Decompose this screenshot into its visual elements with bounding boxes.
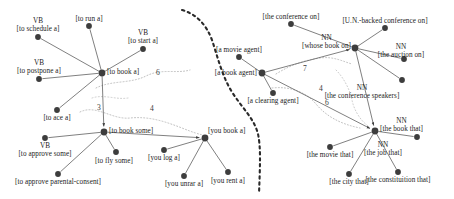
edge (48, 132, 100, 137)
pos-tag: NN (302, 34, 351, 42)
graph-node[interactable] (327, 144, 333, 150)
edge-weight-label: 4 (150, 104, 154, 113)
node-label-text: [the conference speakers] (325, 92, 400, 100)
node-label-text: [you unrar a] (165, 180, 203, 188)
edge (186, 141, 204, 173)
graph-node[interactable] (54, 107, 60, 113)
pos-tag: NN (325, 84, 400, 92)
node-label: VB[to start a] (128, 29, 158, 46)
edge (102, 76, 104, 126)
node-label: [to fly some] (95, 157, 133, 165)
node-label-text: [the book that] (380, 125, 423, 133)
node-label-text: [to book a] (107, 68, 139, 76)
graph-node[interactable] (399, 77, 405, 83)
node-label-text: [U.N.-backed conference on] (342, 17, 427, 25)
graph-node[interactable] (372, 128, 379, 135)
node-label: NN[the auction on] (378, 43, 424, 60)
pos-tag: VB (16, 17, 59, 25)
node-label-text: [you book a] (208, 127, 245, 135)
graph-node[interactable] (36, 76, 42, 82)
node-label: VB[to schedule a] (16, 17, 59, 34)
node-label: [you log a] (148, 154, 180, 162)
node-label-text: [to schedule a] (16, 25, 59, 33)
edge (90, 29, 101, 69)
node-label: NN[the book that] (380, 117, 423, 134)
node-label-text: [the constituition that] (365, 176, 430, 184)
graph-node[interactable] (259, 70, 266, 77)
node-label-text: [a book agent] (215, 69, 257, 77)
pos-tag: VB (18, 142, 71, 150)
node-label: [a movie agent] (216, 46, 262, 54)
graph-node[interactable] (346, 171, 352, 177)
pos-tag: NN (364, 141, 402, 149)
node-label-text: [to fly some] (95, 157, 133, 165)
node-label: [the movie that] (307, 151, 354, 159)
edge (207, 141, 226, 169)
graph-node[interactable] (42, 135, 48, 141)
node-label-text: [you log a] (148, 154, 180, 162)
graph-node[interactable] (382, 25, 388, 31)
graph-node[interactable] (236, 54, 242, 60)
node-label: [a book agent] (215, 69, 257, 77)
node-label-text: [the auction on] (378, 51, 424, 59)
graph-node[interactable] (86, 23, 92, 29)
node-label-text: [a movie agent] (216, 46, 262, 54)
node-label: NN[whose book on] (302, 34, 351, 51)
graph-node[interactable] (414, 134, 420, 140)
graph-node[interactable] (140, 46, 146, 52)
graph-node[interactable] (288, 21, 294, 27)
graph-node[interactable] (113, 149, 119, 155)
node-label: [the city that] (329, 178, 368, 186)
node-label: [U.N.-backed conference on] (342, 17, 427, 25)
node-label-text: [to ace a] (43, 114, 70, 122)
node-label-text: [to book some] (109, 127, 153, 135)
node-label-text: [the city that] (329, 178, 368, 186)
graph-node[interactable] (395, 169, 401, 175)
edge (265, 49, 349, 72)
node-label: [you book a] (208, 127, 245, 135)
edge (106, 135, 115, 149)
graph-node[interactable] (181, 173, 187, 179)
node-label-text: [whose book on] (302, 42, 351, 50)
node-label-text: [to approve some] (18, 150, 71, 158)
node-label-text: [the job that] (364, 149, 402, 157)
node-label-text: [to run a] (75, 15, 102, 23)
pos-tag: VB (128, 29, 158, 37)
cluster-boundary-left-mid (92, 97, 128, 99)
node-label-text: [to start a] (128, 37, 158, 45)
node-label: VB[to postpone a] (17, 59, 61, 76)
node-label: [to book a] (107, 68, 139, 76)
pos-tag: NN (380, 117, 423, 125)
node-label: [a clearing agent] (247, 97, 298, 105)
node-label: [to run a] (75, 15, 102, 23)
pos-tag: VB (17, 59, 61, 67)
edge-weight-label: 3 (97, 103, 101, 112)
node-label-text: [to postpone a] (17, 67, 61, 75)
node-label: [to book some] (109, 127, 153, 135)
graph-node[interactable] (101, 129, 108, 136)
node-label-text: [the conference on] (263, 13, 320, 21)
node-label-text: [the movie that] (307, 151, 354, 159)
node-label: VB[to approve some] (18, 142, 71, 159)
node-label: NN[the job that] (364, 141, 402, 158)
node-label-text: [a clearing agent] (247, 97, 298, 105)
graph-node[interactable] (99, 70, 106, 77)
graph-node[interactable] (270, 90, 276, 96)
edge-weight-label: 7 (303, 64, 307, 73)
graph-node[interactable] (352, 45, 359, 52)
node-label: [to approve parental-consent] (15, 178, 101, 186)
pos-tag: NN (378, 43, 424, 51)
edge (264, 76, 272, 90)
graph-node[interactable] (161, 147, 167, 153)
edge-weight-label: 6 (325, 98, 329, 107)
edge (60, 75, 100, 108)
edge-weight-label: 6 (156, 68, 160, 77)
graph-node[interactable] (225, 169, 231, 175)
node-label: NN[the conference speakers] (325, 84, 400, 101)
node-label: [you unrar a] (165, 180, 203, 188)
node-label: [you rent a] (211, 177, 245, 185)
graph-node[interactable] (202, 135, 209, 142)
graph-node[interactable] (55, 171, 61, 177)
graph-node[interactable] (35, 34, 41, 40)
node-label: [the constituition that] (365, 176, 430, 184)
